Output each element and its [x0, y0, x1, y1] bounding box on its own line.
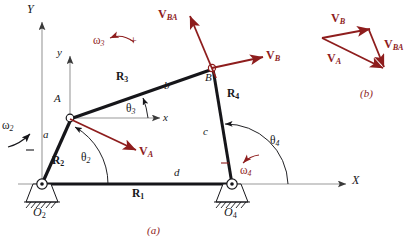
subfigure-caption-a: (a) — [147, 225, 160, 236]
global-y-axis-label: Y — [27, 3, 34, 15]
velocity-label-VA-linkage: VA — [139, 145, 153, 159]
point-label-O4: O4 — [224, 206, 237, 220]
VB-vector-linkage — [212, 57, 263, 68]
VBA-vector-linkage — [190, 16, 216, 78]
link-vector-label-R3: R3 — [116, 71, 128, 84]
velocity-label-VBA-polygon: VBA — [384, 38, 404, 52]
angular-velocity-label-omega2: ω2 — [2, 120, 13, 133]
global-x-axis-label: X — [352, 174, 359, 186]
angle-label-theta3: θ3 — [126, 103, 135, 116]
global-axes — [18, 22, 346, 184]
link-vector-label-R2: R2 — [52, 155, 64, 168]
theta3-arc — [143, 98, 148, 118]
link-vector-label-R4: R4 — [227, 88, 239, 101]
omega2-arrow — [8, 134, 34, 150]
angular-velocity-label-omega4: ω4 — [240, 165, 251, 178]
subfigure-caption-b: (b) — [360, 88, 373, 99]
local-x-axis-label: x — [163, 112, 168, 123]
coupler-link-R3 — [70, 69, 213, 119]
velocity-label-VA-polygon: VA — [327, 52, 341, 66]
angle-arcs — [75, 98, 288, 184]
angular-velocity-label-omega3: ω3 — [93, 35, 104, 48]
point-label-A: A — [54, 93, 61, 104]
omega3-sign: + — [130, 35, 137, 47]
local-y-axis-label: y — [57, 47, 62, 58]
link-vector-label-R1: R1 — [132, 188, 144, 201]
link-length-label-d: d — [174, 167, 180, 178]
point-label-O2: O2 — [33, 206, 46, 220]
theta2-arc — [75, 127, 108, 184]
VA-vector-linkage — [70, 119, 136, 150]
velocity-label-VBA-linkage: VBA — [158, 8, 178, 22]
angle-label-theta2: θ2 — [81, 152, 90, 165]
velocity-label-VB-polygon: VB — [331, 12, 345, 26]
figure-canvas: Y X y x A B O2 O4 R1 R2 R3 R4 a b c d θ2… — [0, 0, 411, 244]
link-length-label-b: b — [164, 80, 170, 91]
diagram-svg — [0, 0, 411, 244]
angle-label-theta4: θ4 — [270, 135, 279, 148]
theta4-arc — [225, 124, 288, 184]
link-length-label-c: c — [203, 126, 208, 137]
point-label-B: B — [205, 72, 212, 83]
velocity-label-VB-linkage: VB — [266, 49, 280, 63]
VB-vector-polygon — [322, 29, 370, 38]
link-length-label-a: a — [43, 129, 49, 140]
